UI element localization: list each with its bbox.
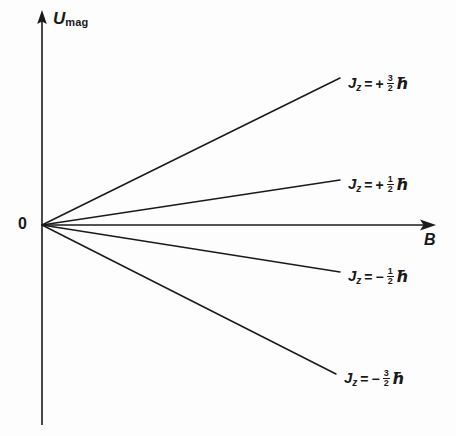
fraction-denominator: 2 [387,185,394,194]
branch-label-symbol: Jz [348,75,361,93]
branch-label-3: Jz=−32ħ [344,369,404,388]
branch-label-equals: = [360,372,368,386]
branch-label-1: Jz=+12ħ [348,175,408,194]
fraction-denominator: 2 [387,277,394,286]
branch-label-symbol: Jz [348,176,361,194]
branch-label-sign: + [376,77,384,91]
branch-label-equals: = [364,270,372,284]
y-axis-label: Umag [53,10,89,28]
hbar-symbol: ħ [396,269,409,285]
branch-label-symbol: Jz [348,268,361,286]
branch-line-2 [42,225,340,272]
fraction-denominator: 2 [387,84,394,93]
fraction-numerator: 1 [387,267,394,276]
branch-label-fraction: 12 [387,175,394,194]
branch-label-sign: − [372,372,380,386]
branch-label-fraction: 12 [387,267,394,286]
branch-line-3 [42,225,336,374]
fraction-denominator: 2 [383,379,390,388]
zeeman-splitting-figure: Umag B 0 Jz=+32ħJz=+12ħJz=−12ħJz=−32ħ [0,0,456,436]
x-axis-label: B [424,232,436,248]
origin-label: 0 [18,216,27,232]
hbar-symbol: ħ [396,177,409,193]
branch-label-sign: + [376,178,384,192]
fraction-numerator: 1 [387,175,394,184]
fraction-numerator: 3 [387,74,394,83]
branch-label-equals: = [364,77,372,91]
branch-label-sign: − [376,270,384,284]
branch-label-fraction: 32 [387,74,394,93]
branch-lines-group [42,78,340,374]
branch-label-fraction: 32 [383,369,390,388]
fraction-numerator: 3 [383,369,390,378]
y-axis-label-symbol: U [53,9,65,28]
y-axis-label-subscript: mag [65,16,88,28]
branch-label-symbol: Jz [344,370,357,388]
hbar-symbol: ħ [396,76,409,92]
branch-label-equals: = [364,178,372,192]
hbar-symbol: ħ [392,371,405,387]
branch-label-2: Jz=−12ħ [348,267,408,286]
branch-label-0: Jz=+32ħ [348,74,408,93]
